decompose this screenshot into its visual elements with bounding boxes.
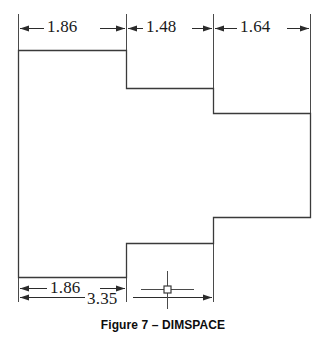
arrowhead-bot-1-left [20,286,29,292]
part-outline [19,51,311,278]
arrowhead-top-1-right [116,26,125,32]
dim-top-3-value: 1.64 [240,18,271,35]
dim-bottom-1-value: 1.86 [50,279,81,296]
technical-drawing-canvas [0,0,326,339]
dim-bottom-2-value: 3.35 [87,290,118,307]
arrowhead-top-3-right [300,26,309,32]
arrowhead-top-3-left [215,26,224,32]
figure-caption: Figure 7 – DIMSPACE [0,318,326,332]
arrowhead-top-2-left [128,26,137,32]
dim-top-2-value: 1.48 [146,18,177,35]
center-mark [141,271,194,309]
arrowhead-bot-2-right [203,295,212,301]
center-mark-grip[interactable] [164,286,171,293]
dim-top-1-value: 1.86 [47,18,78,35]
arrowhead-top-2-right [203,26,212,32]
arrowhead-top-1-left [20,26,29,32]
arrowhead-bot-2-left [20,295,29,301]
